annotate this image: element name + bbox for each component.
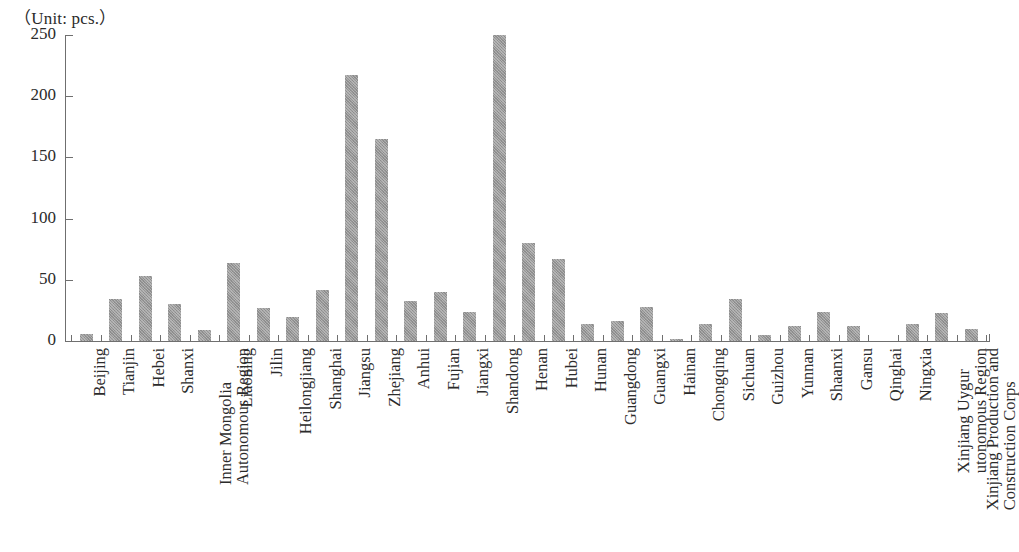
x-axis-category-label: Sichuan xyxy=(740,348,757,401)
y-axis-tick-label: 0 xyxy=(0,330,56,350)
bar xyxy=(168,304,181,341)
category-label-line: Jiangsu xyxy=(356,348,373,398)
x-axis-tick xyxy=(426,335,427,342)
x-axis-tick xyxy=(485,335,486,342)
x-axis-category-label: Guangdong xyxy=(622,348,639,425)
x-axis-tick xyxy=(603,335,604,342)
x-axis-category-label: Chongqing xyxy=(710,348,727,421)
bar xyxy=(227,263,240,341)
x-axis-tick xyxy=(190,335,191,342)
x-axis-category-label: Liaoning xyxy=(238,348,255,408)
x-axis-tick xyxy=(927,335,928,342)
x-axis-category-label: Jiangsu xyxy=(356,348,373,398)
x-axis-category-label: Shanghai xyxy=(327,348,344,409)
category-label-line: Heilongjiang xyxy=(297,348,314,434)
x-axis-category-label: Guangxi xyxy=(651,348,668,405)
category-label-line: Xinjiang Uygur xyxy=(955,348,972,473)
x-axis-tick xyxy=(809,335,810,342)
x-axis-tick xyxy=(868,335,869,342)
x-axis-category-label: Hainan xyxy=(681,348,698,396)
x-axis-tick xyxy=(249,335,250,342)
bar xyxy=(729,299,742,341)
x-axis-tick xyxy=(750,335,751,342)
y-axis-tick xyxy=(65,219,73,220)
y-axis-tick-label: 150 xyxy=(0,146,56,166)
y-axis-tick xyxy=(65,96,73,97)
x-axis-line xyxy=(65,341,990,342)
bar xyxy=(758,335,771,341)
x-axis-tick xyxy=(396,335,397,342)
x-axis-category-label: Henan xyxy=(533,348,550,391)
x-axis-tick xyxy=(71,335,72,342)
x-axis-category-label: Jiangxi xyxy=(474,348,491,396)
category-label-line: Liaoning xyxy=(238,348,255,408)
category-label-line: Guangdong xyxy=(622,348,639,425)
plot-area xyxy=(65,35,990,342)
bar xyxy=(847,326,860,341)
x-axis-category-label: Yunnan xyxy=(799,348,816,398)
x-axis-category-label: Gansu xyxy=(858,348,875,390)
x-axis-tick xyxy=(278,335,279,342)
bar xyxy=(404,301,417,341)
x-axis-category-label: Ningxia xyxy=(917,348,934,401)
x-axis-tick xyxy=(957,335,958,342)
category-label-line: Hubei xyxy=(563,348,580,388)
y-axis-tick xyxy=(65,35,73,36)
x-axis-tick xyxy=(514,335,515,342)
bar xyxy=(375,139,388,341)
x-axis-tick xyxy=(131,335,132,342)
bar xyxy=(581,324,594,341)
category-label-line: Chongqing xyxy=(710,348,727,421)
category-label-line: Fujian xyxy=(445,348,462,390)
x-axis-tick xyxy=(101,335,102,342)
y-axis-tick xyxy=(65,157,73,158)
category-label-line: Jilin xyxy=(268,348,285,376)
y-axis-tick xyxy=(65,280,73,281)
bar xyxy=(670,339,683,341)
category-label-line: Hunan xyxy=(592,348,609,392)
x-axis-tick xyxy=(898,335,899,342)
x-axis-tick xyxy=(691,335,692,342)
x-axis-end-cap xyxy=(989,334,990,342)
bar xyxy=(434,292,447,341)
category-label-line: Shaanxi xyxy=(828,348,845,401)
bar xyxy=(906,324,919,341)
x-axis-tick xyxy=(308,335,309,342)
category-label-line: Shanxi xyxy=(179,348,196,394)
bar xyxy=(286,317,299,341)
category-label-line: Qinghai xyxy=(887,348,904,401)
x-axis-category-label: Fujian xyxy=(445,348,462,390)
x-axis-tick xyxy=(839,335,840,342)
bar xyxy=(345,75,358,341)
bar xyxy=(611,321,624,341)
x-axis-category-label: Tianjin xyxy=(120,348,137,395)
bar xyxy=(965,329,978,341)
x-axis-category-label: Beijing xyxy=(91,348,108,397)
x-axis-category-label: Hunan xyxy=(592,348,609,392)
x-axis-tick xyxy=(662,335,663,342)
bar xyxy=(80,334,93,341)
x-axis-category-label: Hebei xyxy=(150,348,167,387)
x-axis-tick xyxy=(455,335,456,342)
bar xyxy=(463,312,476,341)
x-axis-category-label: Shaanxi xyxy=(828,348,845,401)
y-axis-tick-label: 250 xyxy=(0,24,56,44)
x-axis-tick xyxy=(986,335,987,342)
category-label-line: Jiangxi xyxy=(474,348,491,396)
x-axis-category-label: Shanxi xyxy=(179,348,196,394)
category-label-line: Henan xyxy=(533,348,550,391)
y-axis-line xyxy=(65,35,66,342)
y-axis-tick-label: 200 xyxy=(0,85,56,105)
category-label-line: Anhui xyxy=(415,348,432,389)
category-label-line: Zhejiang xyxy=(386,348,403,407)
y-axis-tick-label: 100 xyxy=(0,208,56,228)
category-label-line: Hebei xyxy=(150,348,167,387)
x-axis-category-label: Jilin xyxy=(268,348,285,376)
x-axis-tick xyxy=(780,335,781,342)
category-label-line: Guangxi xyxy=(651,348,668,405)
bar xyxy=(699,324,712,341)
category-label-line: Construction Corps xyxy=(1001,348,1018,510)
x-axis-tick xyxy=(367,335,368,342)
bar xyxy=(139,276,152,341)
